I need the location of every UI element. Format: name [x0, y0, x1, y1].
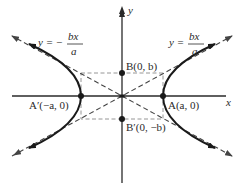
label-A: A(a, 0): [168, 99, 199, 112]
hyperbola-diagram: y x B(0, b) B′(0, −b) A(a, 0) A′(−a, 0) …: [0, 0, 244, 189]
label-A-prime: A′(−a, 0): [29, 99, 69, 112]
svg-text:y =: y =: [168, 36, 184, 48]
covertex-B-prime: [119, 116, 125, 122]
asymptote-negative-label: y = − bx a: [37, 30, 83, 57]
svg-text:bx: bx: [189, 30, 200, 42]
label-B-prime: B′(0, −b): [126, 121, 166, 134]
vertex-A-prime: [78, 93, 84, 99]
origin-marker: [120, 95, 125, 98]
vertex-A: [160, 93, 166, 99]
y-axis-label: y: [127, 4, 133, 16]
svg-text:a: a: [192, 45, 198, 57]
y-axis-arrow-icon: [119, 6, 125, 14]
covertex-B: [119, 70, 125, 76]
label-B: B(0, b): [126, 60, 158, 73]
svg-text:y = −: y = −: [37, 36, 63, 48]
svg-text:bx: bx: [68, 30, 79, 42]
svg-text:a: a: [71, 45, 77, 57]
x-axis-label: x: [225, 96, 231, 108]
